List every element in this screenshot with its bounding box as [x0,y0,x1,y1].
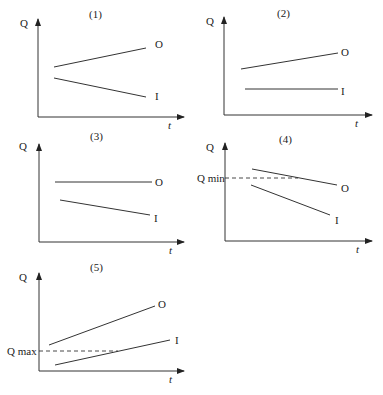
y-axis-label: Q [19,271,27,283]
series-label-i: I [154,212,158,224]
panel-3: (3) Q t O I [19,130,184,256]
series-label-i: I [155,90,159,102]
y-axis-label: Q [206,141,214,153]
series-line-i [60,200,150,215]
series-line-i [251,185,330,215]
panel-title: (3) [90,130,103,143]
series-label-o: O [341,46,349,58]
x-axis-label: t [169,373,173,385]
diagram-canvas: (1) Q t O I (2) Q t O I (3) Q t O I (4) … [0,0,383,395]
y-axis-label: Q [20,17,28,29]
panel-title: (5) [90,261,103,274]
y-axis-label: Q [206,15,214,27]
series-label-o: O [341,182,349,194]
panel-4: (4) Q t Q min O I [197,133,372,255]
series-label-i: I [335,214,339,226]
panel-2: (2) Q t O I [206,7,372,129]
panel-5: (5) Q t Q max O I [7,261,184,385]
threshold-label-qmin: Q min [197,172,225,184]
panel-1: (1) Q t O I [20,8,184,131]
y-axis-label: Q [19,140,27,152]
series-label-o: O [155,38,163,50]
x-axis-label: t [168,119,172,131]
series-label-i: I [175,334,179,346]
series-label-o: O [158,298,166,310]
series-line-o [252,169,337,185]
series-line-i [55,340,170,365]
threshold-label-qmax: Q max [7,345,37,357]
series-line-o [241,53,338,69]
series-line-o [49,306,155,345]
series-label-i: I [341,85,345,97]
panel-title: (2) [277,7,290,20]
series-line-o [54,48,146,67]
x-axis-label: t [169,244,173,256]
panel-title: (4) [279,133,292,146]
panel-title: (1) [89,8,102,21]
series-label-o: O [155,176,163,188]
x-axis-label: t [356,243,360,255]
series-line-i [54,78,146,97]
x-axis-label: t [355,117,359,129]
